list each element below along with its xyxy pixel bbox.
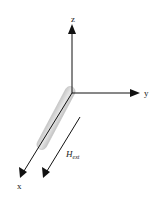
coordinate-diagram: z y x Hext [0, 0, 158, 205]
x-axis-label: x [17, 181, 22, 191]
field-label: Hext [65, 149, 80, 160]
y-axis-label: y [144, 88, 149, 98]
x-axis [19, 93, 72, 178]
y-axis [72, 89, 140, 97]
z-axis [68, 24, 76, 93]
z-axis-label: z [71, 14, 75, 24]
